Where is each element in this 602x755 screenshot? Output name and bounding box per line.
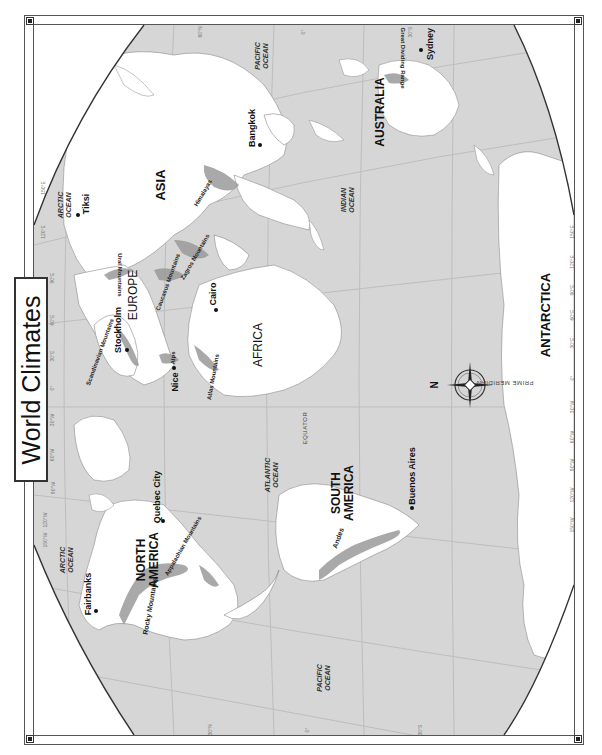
longitude-label: 120°W [42, 512, 48, 527]
label-pacific-ocean-east: PACIFICOCEAN [254, 42, 269, 69]
longitude-label-right: 0° [569, 376, 575, 381]
frame-corner-top-right [574, 17, 582, 25]
city-dot-buenos-aires [410, 506, 414, 510]
label-equator: EQUATOR [302, 412, 308, 445]
label-antarctica: ANTARCTICA [538, 273, 553, 357]
latitude-label: 0° [300, 30, 306, 35]
longitude-label-right: 30°W [569, 401, 575, 413]
label-asia: ASIA [153, 169, 168, 200]
longitude-label-right: 150°E [569, 225, 575, 239]
label-tiksi: Tiksi [81, 194, 91, 214]
label-indian-ocean: INDIANOCEAN [340, 187, 355, 212]
label-buenos-aires: Buenos Aires [407, 447, 417, 505]
city-dot-nice [172, 366, 176, 370]
label-ural-mountains: Ural Mountains [117, 253, 123, 296]
label-nice: Nice [170, 372, 180, 391]
longitude-label: 60°W [49, 449, 55, 461]
city-dot-bangkok [258, 143, 262, 147]
longitude-label-right: 120°W [569, 487, 575, 502]
longitude-label: 60°E [49, 315, 55, 326]
city-dot-tiksi [76, 213, 80, 217]
longitude-label-right: 90°W [569, 459, 575, 471]
label-pacific-ocean-west: PACIFICOCEAN [316, 664, 331, 691]
label-alps: Alps [170, 351, 176, 364]
title-box: World Climates [14, 277, 48, 482]
latitude-label: 60°N [197, 26, 203, 37]
label-cairo: Cairo [208, 282, 218, 305]
longitude-label-right: 90°E [569, 285, 575, 296]
label-africa: AFRICA [251, 323, 265, 367]
compass-north-label: N [429, 381, 440, 388]
longitude-label-right: 120°E [569, 255, 575, 269]
label-great-dividing-range: Great Dividing Range [400, 27, 406, 88]
frame-corner-top-left [26, 17, 34, 25]
label-quebec-city: Quebec City [152, 471, 162, 524]
longitude-label: 30°W [49, 414, 55, 426]
frame-corner-bottom-right [574, 735, 582, 743]
longitude-label: 150°E [40, 181, 46, 195]
city-dot-fairbanks [94, 609, 98, 613]
longitude-label-right: 30°E [569, 338, 575, 349]
longitude-label: 30°E [49, 351, 55, 362]
longitude-label: 120°E [40, 225, 46, 239]
latitude-label: 0° [304, 728, 310, 733]
longitude-label: 90°E [49, 273, 55, 284]
map-title: World Climates [17, 295, 46, 464]
label-atlantic-ocean: ATLANTICOCEAN [264, 458, 279, 492]
latitude-label: 30°N [207, 724, 213, 735]
longitude-label: 90°W [50, 482, 56, 494]
compass-rose-icon [445, 360, 495, 410]
label-stockholm: Stockholm [113, 307, 123, 353]
label-europe: EUROPE [126, 270, 140, 321]
latitude-label: 30°S [417, 725, 423, 736]
label-bangkok: Bangkok [247, 109, 257, 147]
label-arctic-ocean-asia: ARCTICOCEAN [57, 192, 72, 218]
label-fairbanks: Fairbanks [83, 573, 93, 616]
city-dot-stockholm [125, 348, 129, 352]
label-south-america: SOUTHAMERICA [330, 465, 355, 521]
latitude-label: 30°S [407, 27, 413, 38]
longitude-label-right: 150°W [569, 517, 575, 532]
longitude-label-right: 60°E [569, 310, 575, 321]
label-arctic-ocean-america: ARCTICOCEAN [59, 547, 74, 573]
longitude-label: 0° [49, 386, 55, 391]
longitude-label: 150°W [42, 532, 48, 547]
city-dot-sydney [419, 48, 423, 52]
label-australia: AUSTRALIA [373, 77, 387, 146]
city-dot-cairo [214, 308, 218, 312]
label-sydney: Sydney [425, 28, 435, 60]
frame-corner-bottom-left [26, 735, 34, 743]
longitude-label-right: 60°W [569, 431, 575, 443]
